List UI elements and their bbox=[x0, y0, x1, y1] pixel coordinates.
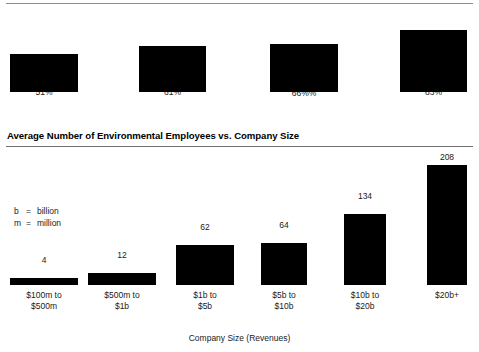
legend-text-billion: billion bbox=[37, 206, 59, 216]
bottom-bar-category-6: $20b+ bbox=[407, 290, 479, 301]
bottom-bar-6 bbox=[427, 165, 467, 285]
bottom-bar-category-2-line-2: $1b bbox=[82, 301, 162, 312]
top-bar-group-2: Environmental Departments 61% bbox=[139, 0, 206, 108]
legend-key-m: m bbox=[14, 217, 26, 229]
bottom-bar-3 bbox=[176, 245, 234, 285]
bottom-bar-category-3-line-1: $1b to bbox=[165, 290, 245, 301]
top-bar-group-1: Task Forces 51% bbox=[10, 0, 78, 108]
bottom-bar-value-6: 208 bbox=[427, 152, 467, 162]
top-bar-3 bbox=[270, 44, 338, 92]
top-bar-group-4: Middle Manager 83% bbox=[400, 0, 467, 108]
bottom-bar-category-1-line-2: $500m bbox=[4, 301, 84, 312]
units-legend: b=billion m=million bbox=[14, 205, 61, 229]
legend-eq-m: = bbox=[26, 217, 37, 229]
section-heading: Average Number of Environmental Employee… bbox=[7, 130, 299, 141]
bottom-bar-1 bbox=[10, 278, 78, 285]
bottom-bar-value-4: 64 bbox=[261, 220, 307, 230]
top-bar-2 bbox=[139, 46, 206, 92]
legend-row-million: m=million bbox=[14, 217, 61, 229]
bottom-bar-category-1-line-1: $100m to bbox=[4, 290, 84, 301]
bottom-bar-category-4-line-2: $10b bbox=[244, 301, 324, 312]
section-divider-rule bbox=[6, 146, 473, 147]
bottom-bar-category-5: $10b to $20b bbox=[325, 290, 405, 311]
bottom-bar-category-5-line-1: $10b to bbox=[325, 290, 405, 301]
top-bar-chart: Task Forces 51% Environmental Department… bbox=[0, 0, 479, 124]
bottom-bar-category-3: $1b to $5b bbox=[165, 290, 245, 311]
bottom-bar-category-5-line-2: $20b bbox=[325, 301, 405, 312]
legend-row-billion: b=billion bbox=[14, 205, 61, 217]
bottom-bar-category-2: $500m to $1b bbox=[82, 290, 162, 311]
top-bar-1 bbox=[10, 54, 78, 92]
bottom-bar-value-2: 12 bbox=[88, 250, 156, 260]
x-axis-title: Company Size (Revenues) bbox=[0, 333, 479, 343]
bottom-bar-category-4-line-1: $5b to bbox=[244, 290, 324, 301]
bottom-bar-value-3: 62 bbox=[176, 222, 234, 232]
legend-eq-b: = bbox=[26, 205, 37, 217]
top-bar-group-3: Board or Executive Officers 66%% bbox=[270, 0, 338, 108]
legend-text-million: million bbox=[37, 218, 61, 228]
bottom-bar-2 bbox=[88, 273, 156, 285]
bottom-bar-value-5: 134 bbox=[344, 191, 386, 201]
bottom-bar-5 bbox=[344, 214, 386, 285]
bottom-bar-category-2-line-1: $500m to bbox=[82, 290, 162, 301]
bottom-bar-4 bbox=[261, 243, 307, 285]
bottom-bar-category-4: $5b to $10b bbox=[244, 290, 324, 311]
top-bar-4 bbox=[400, 30, 467, 92]
legend-key-b: b bbox=[14, 205, 26, 217]
bottom-bar-category-6-line-1: $20b+ bbox=[407, 290, 479, 301]
bottom-bar-value-1: 4 bbox=[10, 255, 78, 265]
chart-page: Task Forces 51% Environmental Department… bbox=[0, 0, 479, 352]
bottom-bar-category-3-line-2: $5b bbox=[165, 301, 245, 312]
bottom-bar-chart: b=billion m=million 4 $100m to $500m 12 … bbox=[0, 150, 479, 352]
bottom-bar-category-1: $100m to $500m bbox=[4, 290, 84, 311]
